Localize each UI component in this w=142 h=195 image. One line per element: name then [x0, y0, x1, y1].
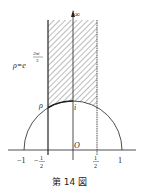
tick-half-den: 2 [94, 163, 97, 169]
tick-plus-one: 1 [118, 156, 122, 165]
label-rho-point: ρ [38, 101, 43, 110]
tick-minus-half-den: 2 [40, 163, 43, 169]
label-rho-definition: ρ=e [12, 61, 26, 70]
fundamental-domain-diagram: i∞ ρ=e 2πi 3 ρ i O −1 − 1 2 1 2 1 第 14 図 [0, 0, 142, 195]
label-rho-exponent-den: 3 [36, 58, 39, 63]
label-rho-exponent-num: 2πi [33, 51, 40, 56]
tick-half-num: 1 [94, 155, 97, 161]
label-i-point: i [74, 103, 76, 112]
tick-minus-one: −1 [17, 156, 26, 165]
figure-caption: 第 14 図 [52, 176, 87, 187]
tick-minus-half-sign: − [34, 156, 39, 165]
tick-minus-half-num: 1 [40, 155, 43, 161]
label-origin: O [74, 141, 80, 150]
label-i-infinity: i∞ [72, 10, 80, 19]
